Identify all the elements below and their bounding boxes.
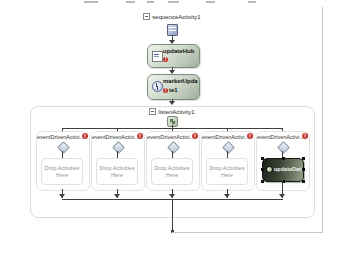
event-driven-label: eventDrivenActivi... [147, 134, 193, 140]
selection-handle[interactable] [302, 157, 305, 160]
error-badge-icon[interactable]: ! [82, 133, 88, 139]
selection-handle[interactable] [261, 157, 264, 160]
validation-error-icon[interactable]: ! [163, 88, 168, 93]
connector-line [172, 151, 173, 158]
activity-updateHub[interactable]: updateHub ! [147, 44, 200, 68]
event-driven-icon [222, 141, 235, 154]
arrowhead-icon [169, 101, 175, 105]
arrowhead-icon [279, 194, 285, 198]
cropped-text-mark [168, 1, 179, 3]
collapse-toggle-icon[interactable] [149, 108, 156, 115]
arrowhead-icon [224, 194, 230, 198]
connector-line [117, 151, 118, 158]
selected-activity-updateData[interactable]: updateData [262, 158, 304, 182]
error-badge-icon[interactable]: ! [137, 133, 143, 139]
error-badge-icon[interactable]: ! [192, 133, 198, 139]
sequence-activity-label: sequenceActivity1 [152, 14, 200, 20]
delay-clock-icon [152, 81, 163, 92]
connector-line [227, 151, 228, 158]
drop-zone[interactable]: Drop Activities Here [41, 158, 83, 185]
error-badge-icon[interactable]: ! [247, 133, 253, 139]
collapse-toggle-icon[interactable] [143, 13, 150, 20]
selection-handle[interactable] [282, 157, 285, 160]
event-driven-label: eventDrivenActivi... [257, 134, 303, 140]
error-badge-icon[interactable]: ! [302, 133, 308, 139]
selection-handle[interactable] [302, 180, 305, 183]
selection-handle[interactable] [302, 168, 305, 171]
event-driven-branch[interactable]: eventDrivenActivi... ! Drop Activities H… [91, 131, 145, 191]
listen-activity-label: listenActivity1 [158, 109, 194, 115]
selection-handle[interactable] [261, 168, 264, 171]
cropped-text-mark [248, 1, 256, 3]
arrowhead-icon [114, 194, 120, 198]
event-driven-branch[interactable]: eventDrivenActivi... ! Drop Activities H… [36, 131, 90, 191]
loop-connector-line [322, 7, 323, 233]
code-activity-icon [152, 51, 163, 62]
cropped-text-mark [147, 1, 154, 3]
cropped-text-mark [126, 1, 135, 3]
arrowhead-icon [169, 194, 175, 198]
sequence-activity-header: sequenceActivity1 [112, 13, 232, 20]
drop-zone[interactable]: Drop Activities Here [206, 158, 248, 185]
validation-error-icon[interactable]: ! [163, 57, 168, 62]
drop-zone[interactable]: Drop Activities Here [96, 158, 138, 185]
activity-name-line2: te1 [169, 87, 178, 93]
connector-line [62, 151, 63, 158]
cropped-text-mark [84, 1, 98, 3]
activity-name: updateData [274, 166, 304, 172]
loop-connector-line [172, 232, 323, 233]
event-driven-branch[interactable]: eventDrivenActivi... ! Drop Activities H… [201, 131, 255, 191]
cropped-text-mark [206, 1, 215, 3]
arrowhead-icon [59, 194, 65, 198]
event-driven-icon [112, 141, 125, 154]
event-driven-label: eventDrivenActivi... [202, 134, 248, 140]
connector-line [172, 199, 173, 230]
event-driven-icon [167, 141, 180, 154]
event-driven-label: eventDrivenActivi... [37, 134, 83, 140]
event-driven-icon [57, 141, 70, 154]
selection-handle[interactable] [261, 180, 264, 183]
workflow-designer-canvas[interactable]: sequenceActivity1 updateHub ! marketUpda… [0, 0, 343, 253]
activity-status-icon [266, 166, 273, 173]
event-driven-branch[interactable]: eventDrivenActivi... ! Drop Activities H… [146, 131, 200, 191]
event-driven-branch[interactable]: eventDrivenActivi... ! updateData [256, 131, 310, 191]
activity-name-line1: marketUpda [163, 78, 198, 84]
event-driven-icon [277, 141, 290, 154]
drop-zone[interactable]: Drop Activities Here [151, 158, 193, 185]
activity-marketUpdate[interactable]: marketUpda ! te1 [147, 74, 200, 100]
activity-name: updateHub [163, 48, 194, 54]
listen-activity-header: listenActivity1 [112, 108, 232, 115]
event-driven-label: eventDrivenActivi... [92, 134, 138, 140]
